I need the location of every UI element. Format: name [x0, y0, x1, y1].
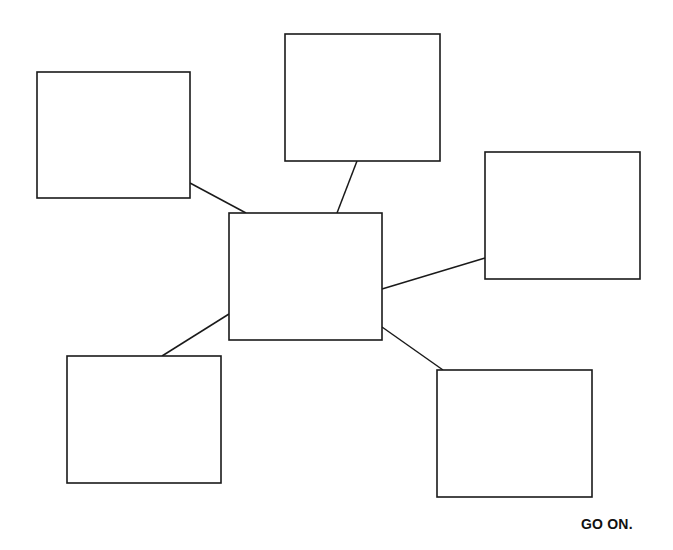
center-box[interactable]	[229, 213, 382, 340]
nodes	[37, 34, 640, 497]
web-organizer-diagram	[0, 0, 673, 550]
outer-box-top-left[interactable]	[37, 72, 190, 198]
outer-box-bottom-right[interactable]	[437, 370, 592, 497]
edge-center-top-left	[190, 183, 246, 213]
outer-box-top-center[interactable]	[285, 34, 440, 161]
edge-center-bottom-right	[382, 327, 443, 370]
go-on-label: GO ON.	[581, 516, 633, 532]
outer-box-right[interactable]	[485, 152, 640, 279]
edge-center-top-center	[337, 161, 357, 213]
outer-box-bottom-left[interactable]	[67, 356, 221, 483]
edge-center-right	[382, 258, 485, 289]
edge-center-bottom-left	[162, 314, 229, 356]
